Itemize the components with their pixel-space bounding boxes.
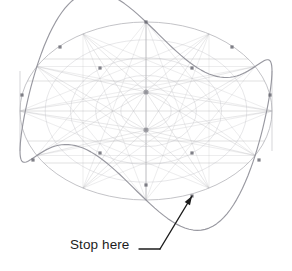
construction-lines	[20, 22, 272, 200]
vertex-dot-peak-top-left	[58, 45, 61, 48]
figure-canvas: Stop here	[0, 0, 292, 271]
radial-spoke-0-7	[37, 92, 146, 156]
radial-spoke-0-5	[37, 67, 146, 93]
radial-spoke-1-4	[83, 34, 146, 130]
chord-web-5-2	[37, 34, 209, 156]
radial-spoke-1-5	[37, 67, 146, 131]
radial-spoke-1-2	[146, 34, 209, 130]
radial-spoke-0-8	[83, 92, 146, 188]
vertex-dot-right-edge-upper	[268, 93, 271, 96]
vertex-dot-right-edge-lower	[257, 158, 260, 161]
chord-web-5-11	[83, 34, 255, 156]
hub-dot-lower-hub	[143, 127, 148, 132]
chord-web-4-6	[20, 111, 209, 188]
chord-web-5-5	[37, 67, 209, 189]
radial-spoke-0-10	[146, 92, 209, 188]
geometry-diagram	[0, 0, 292, 271]
chord-web-4-2	[20, 34, 209, 111]
leader-shaft	[160, 196, 192, 249]
vertex-dot-peak-bottom-right	[190, 151, 193, 154]
chord-web-5-8	[83, 67, 255, 189]
vertex-dot-peak-bottom-left	[98, 151, 101, 154]
hub-dot-upper-hub	[143, 89, 148, 94]
vertex-dot-peak-top-right	[230, 45, 233, 48]
vertex-dot-peak-top-center	[144, 20, 147, 23]
vertex-dot-trough-upper-left	[98, 66, 101, 69]
radial-spoke-1-1	[146, 67, 255, 131]
radial-spoke-1-11	[146, 130, 255, 156]
vertex-dot-trough-bottom-center	[144, 183, 147, 186]
leader-arrow	[139, 196, 192, 249]
chord-web-4-0	[83, 34, 272, 111]
vertex-dot-left-edge-upper	[20, 93, 23, 96]
arrowhead	[185, 196, 192, 205]
stop-here-label: Stop here	[70, 238, 129, 252]
vertex-dot-left-edge-lower	[31, 158, 34, 161]
vertex-dot-trough-upper-right	[190, 66, 193, 69]
radial-spoke-0-11	[146, 92, 255, 156]
chord-web-4-8	[83, 111, 272, 188]
